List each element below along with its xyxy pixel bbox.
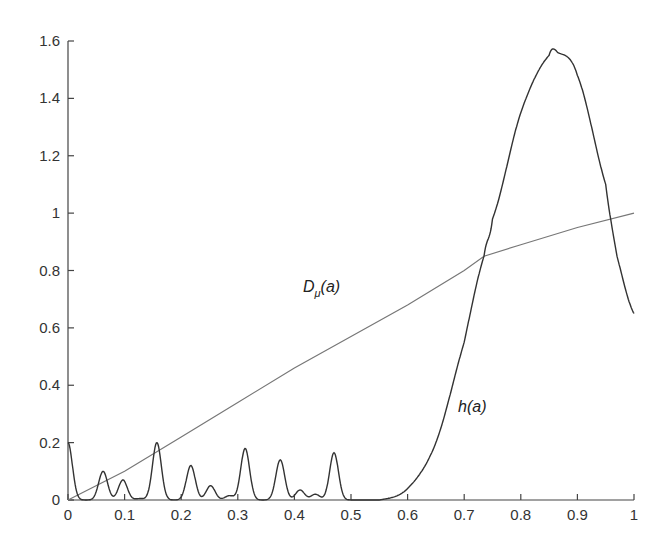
y-tick-label: 1.4 (39, 89, 60, 106)
y-ticks: 00.20.40.60.811.21.41.6 (39, 32, 74, 508)
x-tick-label: 0.5 (341, 506, 362, 523)
y-tick-label: 0.4 (39, 376, 60, 393)
series-labels: Dμ(a) h(a) (303, 278, 486, 415)
x-tick-label: 0.9 (567, 506, 588, 523)
y-tick-label: 1.2 (39, 147, 60, 164)
x-tick-label: 0.7 (454, 506, 475, 523)
x-ticks: 00.10.20.30.40.50.60.70.80.91 (64, 494, 638, 523)
series-h-line (68, 49, 634, 500)
x-tick-label: 0.6 (397, 506, 418, 523)
y-tick-label: 0.6 (39, 319, 60, 336)
series-label-d-mu: Dμ(a) (303, 278, 340, 299)
series-label-h: h(a) (458, 398, 486, 415)
y-tick-label: 0.2 (39, 434, 60, 451)
plot-area (68, 49, 634, 500)
x-tick-label: 0.8 (510, 506, 531, 523)
x-tick-label: 0.4 (284, 506, 305, 523)
x-tick-label: 0 (64, 506, 72, 523)
y-tick-label: 1 (52, 204, 60, 221)
x-tick-label: 0.3 (227, 506, 248, 523)
y-tick-label: 1.6 (39, 32, 60, 49)
x-tick-label: 0.2 (171, 506, 192, 523)
x-tick-label: 0.1 (114, 506, 135, 523)
y-tick-label: 0 (52, 491, 60, 508)
x-tick-label: 1 (630, 506, 638, 523)
axes (68, 41, 634, 500)
y-tick-label: 0.8 (39, 262, 60, 279)
chart: 00.20.40.60.811.21.41.6 00.10.20.30.40.5… (0, 0, 668, 554)
